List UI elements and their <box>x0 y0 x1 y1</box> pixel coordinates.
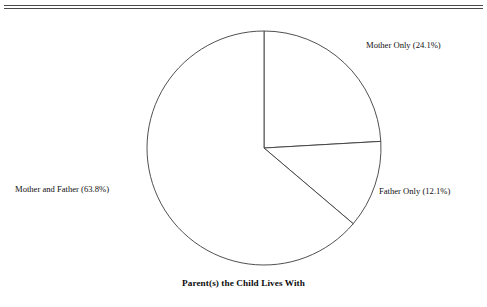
slice-label-mother-only: Mother Only (24.1%) <box>366 40 441 51</box>
figure-caption: Parent(s) the Child Lives With <box>0 278 487 288</box>
pie-slice[interactable] <box>264 31 381 148</box>
figure-page: Mother Only (24.1%) Father Only (12.1%) … <box>0 0 487 307</box>
slice-label-father-only: Father Only (12.1%) <box>379 186 450 197</box>
slice-label-mother-and-father: Mother and Father (63.8%) <box>15 184 109 195</box>
pie-chart: Mother Only (24.1%) Father Only (12.1%) … <box>0 0 487 307</box>
